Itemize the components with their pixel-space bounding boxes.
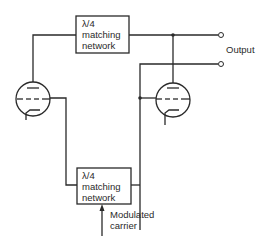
- left-tube-icon: [16, 82, 50, 120]
- input-arrow-head-icon: [100, 204, 105, 211]
- junction-dot-output: [171, 33, 175, 37]
- doherty-amplifier-diagram: λ/4 matching network λ/4 matching networ…: [0, 0, 269, 244]
- output-terminal-1-icon: [219, 33, 224, 38]
- input-label-1: Modulated: [110, 209, 154, 220]
- input-label-2: carrier: [110, 220, 137, 231]
- wire-left-anode: [33, 35, 76, 82]
- junction-dot-grid: [138, 96, 142, 100]
- right-tube-icon: [156, 83, 190, 125]
- top-network-label-1: λ/4: [82, 18, 95, 29]
- bottom-network-label-2: matching: [82, 181, 121, 192]
- bottom-network-label-3: network: [82, 192, 116, 203]
- wire-output-2: [140, 64, 218, 230]
- top-network-label-3: network: [82, 40, 116, 51]
- top-network-label-2: matching: [82, 29, 121, 40]
- output-terminal-2-icon: [219, 62, 224, 67]
- bottom-network-label-1: λ/4: [82, 170, 95, 181]
- output-label: Output: [226, 44, 255, 55]
- wire-left-grid: [50, 98, 77, 185]
